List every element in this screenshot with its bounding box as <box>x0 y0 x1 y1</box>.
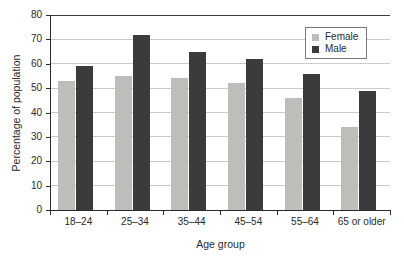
legend: FemaleMale <box>305 27 367 59</box>
x-tick-label-18–24: 18–24 <box>64 216 92 228</box>
y-tick-40 <box>46 113 50 114</box>
bar-male-55–64 <box>303 74 320 211</box>
x-tick-1 <box>107 211 108 215</box>
x-tick-3 <box>220 211 221 215</box>
bar-male-18–24 <box>76 66 93 210</box>
legend-label-female: Female <box>325 31 358 43</box>
x-tick-5 <box>333 211 334 215</box>
bar-female-18–24 <box>58 81 75 210</box>
y-tick-label-70: 70 <box>22 34 42 44</box>
bar-female-25–34 <box>115 76 132 210</box>
legend-swatch-male <box>312 46 319 53</box>
y-tick-10 <box>46 186 50 187</box>
y-tick-30 <box>46 137 50 138</box>
x-tick-0 <box>50 211 51 215</box>
gridline-80 <box>50 15 390 16</box>
y-tick-label-40: 40 <box>22 108 42 118</box>
y-tick-80 <box>46 15 50 16</box>
y-tick-50 <box>46 88 50 89</box>
legend-swatch-female <box>312 34 319 41</box>
gridline-50 <box>50 88 390 89</box>
bar-male-25–34 <box>133 35 150 211</box>
x-tick-label-65 or older: 65 or older <box>338 216 386 228</box>
bar-female-65 or older <box>341 127 358 210</box>
y-axis-line <box>50 15 51 211</box>
gridline-20 <box>50 161 390 162</box>
x-axis-title: Age group <box>50 238 391 250</box>
y-axis-title: Percentage of population <box>10 53 22 173</box>
x-tick-6 <box>390 211 391 215</box>
x-tick-label-45–54: 45–54 <box>234 216 262 228</box>
x-tick-label-55–64: 55–64 <box>291 216 319 228</box>
bar-female-55–64 <box>285 98 302 210</box>
y-tick-60 <box>46 64 50 65</box>
y-tick-label-30: 30 <box>22 132 42 142</box>
y-tick-label-0: 0 <box>22 205 42 215</box>
bar-male-65 or older <box>359 91 376 210</box>
y-tick-label-10: 10 <box>22 181 42 191</box>
x-tick-4 <box>277 211 278 215</box>
x-tick-label-35–44: 35–44 <box>178 216 206 228</box>
gridline-30 <box>50 136 390 137</box>
x-tick-label-25–34: 25–34 <box>121 216 149 228</box>
y-tick-label-50: 50 <box>22 83 42 93</box>
gridline-60 <box>50 63 390 64</box>
bar-male-45–54 <box>246 59 263 210</box>
gridline-10 <box>50 185 390 186</box>
bar-male-35–44 <box>189 52 206 210</box>
y-tick-label-80: 80 <box>22 10 42 20</box>
legend-item-female: Female <box>312 31 362 43</box>
y-tick-label-20: 20 <box>22 156 42 166</box>
y-tick-20 <box>46 161 50 162</box>
bar-female-35–44 <box>171 78 188 210</box>
bar-chart: 0102030405060708018–2425–3435–4445–5455–… <box>0 0 404 266</box>
gridline-40 <box>50 112 390 113</box>
legend-item-male: Male <box>312 43 362 55</box>
bar-female-45–54 <box>228 83 245 210</box>
x-tick-2 <box>163 211 164 215</box>
legend-label-male: Male <box>325 43 347 55</box>
y-tick-70 <box>46 39 50 40</box>
y-tick-label-60: 60 <box>22 59 42 69</box>
